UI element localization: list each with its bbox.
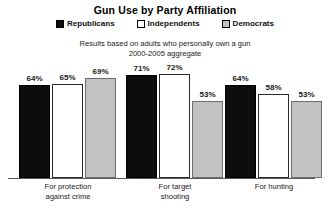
bar-value-protection-independents: 65%: [59, 74, 75, 82]
x-axis-label-target-line1: For target: [159, 182, 192, 192]
chart-title: Gun Use by Party Affiliation: [0, 4, 330, 16]
bar-value-hunting-democrats: 53%: [298, 91, 314, 99]
bar-slot-hunting-democrats: 53%: [290, 62, 323, 178]
bar-slot-protection-democrats: 69%: [84, 62, 117, 178]
bar-slot-protection-republicans: 64%: [18, 62, 51, 178]
chart-legend: Republicans Independents Democrats: [0, 20, 330, 28]
bar-value-target-republicans: 71%: [133, 65, 149, 73]
plot-area: 64% 65% 69% 71% 72% 53%: [10, 62, 320, 178]
legend-swatch-independents: [137, 20, 145, 28]
legend-label-republicans: Republicans: [67, 20, 115, 28]
legend-swatch-republicans: [56, 20, 64, 28]
bar-value-protection-republicans: 64%: [26, 75, 42, 83]
x-axis-label-hunting-line1: For hunting: [255, 182, 293, 192]
x-axis-label-protection: For protection against crime: [45, 182, 92, 201]
bar-value-target-independents: 72%: [166, 64, 182, 72]
bar-target-republicans[interactable]: [126, 75, 157, 178]
bar-hunting-democrats[interactable]: [291, 101, 322, 178]
legend-label-independents: Independents: [148, 20, 200, 28]
bar-slot-target-republicans: 71%: [125, 62, 158, 178]
legend-item-democrats: Democrats: [222, 20, 274, 28]
x-axis-label-protection-line2: against crime: [45, 192, 92, 202]
bar-target-independents[interactable]: [159, 74, 190, 178]
bar-hunting-republicans[interactable]: [225, 85, 256, 178]
x-axis-label-target-line2: shooting: [159, 192, 192, 202]
legend-item-independents: Independents: [137, 20, 200, 28]
bar-value-hunting-republicans: 64%: [232, 75, 248, 83]
bar-group-hunting: 64% 58% 53%: [224, 62, 323, 178]
bar-target-democrats[interactable]: [192, 101, 223, 178]
bar-value-hunting-independents: 58%: [265, 84, 281, 92]
bar-protection-independents[interactable]: [52, 84, 83, 178]
bar-value-target-democrats: 53%: [199, 91, 215, 99]
bar-slot-protection-independents: 65%: [51, 62, 84, 178]
bar-slot-target-independents: 72%: [158, 62, 191, 178]
chart-container: Gun Use by Party Affiliation Republicans…: [0, 0, 330, 209]
legend-item-republicans: Republicans: [56, 20, 115, 28]
subtitle-line-1: Results based on adults who personally o…: [0, 39, 330, 49]
chart-subtitle: Results based on adults who personally o…: [0, 39, 330, 58]
bar-value-protection-democrats: 69%: [92, 68, 108, 76]
bar-group-target-shooting: 71% 72% 53%: [125, 62, 224, 178]
x-axis-label-protection-line1: For protection: [45, 182, 92, 192]
subtitle-line-2: 2000-2005 aggregate: [0, 49, 330, 59]
bar-slot-hunting-independents: 58%: [257, 62, 290, 178]
x-axis-labels: For protection against crime For target …: [10, 182, 320, 206]
bar-group-protection: 64% 65% 69%: [18, 62, 117, 178]
x-axis-label-target-shooting: For target shooting: [159, 182, 192, 201]
legend-label-democrats: Democrats: [233, 20, 274, 28]
bar-slot-hunting-republicans: 64%: [224, 62, 257, 178]
bar-protection-democrats[interactable]: [85, 78, 116, 178]
bar-hunting-independents[interactable]: [258, 94, 289, 178]
bar-protection-republicans[interactable]: [19, 85, 50, 178]
x-axis-baseline: [8, 178, 315, 179]
bar-slot-target-democrats: 53%: [191, 62, 224, 178]
legend-swatch-democrats: [222, 20, 230, 28]
x-axis-label-hunting: For hunting: [255, 182, 293, 192]
